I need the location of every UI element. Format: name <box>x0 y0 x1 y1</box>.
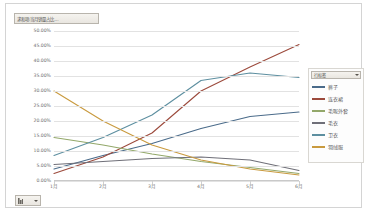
legend-item-label: 羽绒服 <box>328 145 343 150</box>
y-axis-tick-label: 35.00% <box>33 74 51 79</box>
legend-item[interactable]: 卫衣 <box>311 129 361 141</box>
gridline <box>54 46 299 47</box>
legend-item-label: 连衣裙 <box>328 97 343 102</box>
legend-item-label: 裤子 <box>328 85 338 90</box>
x-axis-tick-label: 5月 <box>246 185 254 190</box>
y-axis-tick-label: 40.00% <box>33 59 51 64</box>
legend-color-swatch <box>312 134 325 136</box>
legend-item[interactable]: 毛衣 <box>311 117 361 129</box>
y-axis-tick-label: 45.00% <box>33 44 51 49</box>
x-axis-tick-label: 2月 <box>99 185 107 190</box>
x-axis-tick-mark <box>103 181 104 184</box>
legend-color-swatch <box>312 110 325 112</box>
gridline <box>54 181 299 182</box>
x-axis-tick-mark <box>201 181 202 184</box>
gridline <box>54 76 299 77</box>
x-axis-tick-label: 6月 <box>295 185 303 190</box>
y-axis-tick-label: 0.00% <box>36 179 51 184</box>
y-axis-tick-label: 30.00% <box>33 89 51 94</box>
y-axis-tick-label: 25.00% <box>33 104 51 109</box>
y-axis-tick-label: 20.00% <box>33 119 51 124</box>
legend-item[interactable]: 连衣裙 <box>311 93 361 105</box>
legend-item[interactable]: 羽绒服 <box>311 141 361 153</box>
legend-field-label: 行标签 <box>314 72 326 78</box>
legend-item-label: 毛呢外套 <box>328 109 348 114</box>
x-axis-tick-label: 1月 <box>50 185 58 190</box>
legend-field-button[interactable]: 行标签 <box>311 71 361 79</box>
x-axis-tick-mark <box>250 181 251 184</box>
gridline <box>54 136 299 137</box>
legend-item[interactable]: 裤子 <box>311 81 361 93</box>
gridline <box>54 151 299 152</box>
gridline <box>54 166 299 167</box>
legend-items: 裤子连衣裙毛呢外套毛衣卫衣羽绒服 <box>311 81 361 153</box>
x-axis-tick-mark <box>54 181 55 184</box>
legend-item[interactable]: 毛呢外套 <box>311 105 361 117</box>
legend: 行标签 裤子连衣裙毛呢外套毛衣卫衣羽绒服 <box>308 68 364 163</box>
legend-chevron-down-icon[interactable] <box>355 74 359 76</box>
legend-item-label: 毛衣 <box>328 121 338 126</box>
x-axis-tick-label: 4月 <box>197 185 205 190</box>
x-axis-tick-mark <box>152 181 153 184</box>
gridline <box>54 121 299 122</box>
legend-color-swatch <box>312 86 325 88</box>
legend-color-swatch <box>312 98 325 100</box>
gridline <box>54 106 299 107</box>
legend-color-swatch <box>312 146 325 148</box>
x-axis-tick-label: 3月 <box>148 185 156 190</box>
y-axis-tick-label: 50.00% <box>33 29 51 34</box>
series-line <box>54 138 299 174</box>
y-axis-tick-label: 15.00% <box>33 134 51 139</box>
x-axis-tick-mark <box>299 181 300 184</box>
gridline <box>54 91 299 92</box>
pivot-chart-frame: 求和项:当月销量占比... 月 0.00%5.00%10.00%15.00%20… <box>5 3 362 208</box>
x-axis-line <box>54 180 299 181</box>
legend-color-swatch <box>312 122 325 124</box>
gridline <box>54 61 299 62</box>
gridline <box>54 31 299 32</box>
y-axis-tick-label: 10.00% <box>33 149 51 154</box>
y-axis-tick-label: 5.00% <box>36 164 51 169</box>
plot-area: 0.00%5.00%10.00%15.00%20.00%25.00%30.00%… <box>54 31 299 181</box>
legend-item-label: 卫衣 <box>328 133 338 138</box>
series-line <box>54 45 299 174</box>
